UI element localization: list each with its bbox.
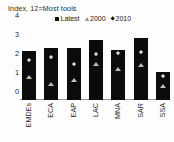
- bar-group: [134, 24, 148, 100]
- y-axis-tick: 4: [5, 12, 19, 20]
- triangle-marker-icon: [85, 17, 89, 21]
- x-label-slot: LAC: [89, 101, 103, 141]
- x-axis-tick-label: EAP: [70, 103, 78, 117]
- x-axis-tick-label: ECA: [47, 103, 55, 118]
- x-axis-tick-label: EMDEs: [25, 103, 33, 127]
- x-axis-tick-label: SAR: [137, 103, 145, 118]
- y-axis-tick: 2: [5, 50, 19, 58]
- bar-series: [22, 24, 170, 100]
- bar-latest: [134, 38, 148, 100]
- bar-latest: [111, 50, 125, 100]
- legend-label-latest: Latest: [61, 15, 80, 23]
- x-axis-tick-label: MNA: [114, 103, 122, 119]
- y-axis-tick: 1: [5, 69, 19, 77]
- point-2000: [115, 67, 121, 71]
- y-axis-tick: 0: [5, 88, 19, 96]
- bar-latest: [67, 48, 81, 100]
- bar-group: [89, 24, 103, 100]
- legend-item-2010: 2010: [111, 15, 131, 23]
- x-label-slot: SSA: [156, 101, 170, 141]
- x-label-slot: EAP: [67, 101, 81, 141]
- x-axis-tick-label: LAC: [92, 103, 100, 117]
- bar-latest: [89, 40, 103, 100]
- x-label-slot: ECA: [44, 101, 58, 141]
- bar-group: [156, 24, 170, 100]
- x-axis-tick-label: SSA: [159, 103, 167, 117]
- point-2000: [160, 84, 166, 88]
- bar-group: [22, 24, 36, 100]
- point-2000: [93, 62, 99, 66]
- legend-label-2000: 2000: [90, 15, 106, 23]
- x-label-slot: SAR: [134, 101, 148, 141]
- y-axis-tick: 3: [5, 31, 19, 39]
- diamond-marker-icon: [110, 17, 115, 22]
- point-2000: [138, 63, 144, 67]
- chart-container: Index, 12=Most tools Latest 2000 2010 01…: [0, 0, 174, 142]
- bar-group: [111, 24, 125, 100]
- chart-legend: Latest 2000 2010: [55, 15, 131, 23]
- plot-area: 01234: [22, 24, 170, 100]
- bar-group: [44, 24, 58, 100]
- legend-item-2000: 2000: [85, 15, 106, 23]
- bar-group: [67, 24, 81, 100]
- legend-item-latest: Latest: [55, 15, 80, 23]
- x-axis-labels: EMDEsECAEAPLACMNASARSSA: [22, 101, 170, 141]
- point-2000: [26, 75, 32, 79]
- point-2000: [71, 78, 77, 82]
- x-label-slot: MNA: [111, 101, 125, 141]
- point-2000: [48, 82, 54, 86]
- legend-label-2010: 2010: [116, 15, 132, 23]
- square-marker-icon: [55, 17, 59, 21]
- x-label-slot: EMDEs: [22, 101, 36, 141]
